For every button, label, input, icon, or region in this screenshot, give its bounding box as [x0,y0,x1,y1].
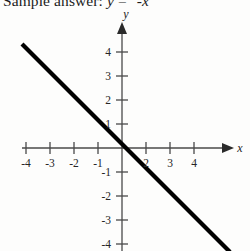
x-tick-label: -3 [45,157,55,169]
y-tick-label: -4 [101,238,111,250]
y-tick-label: -2 [101,190,111,202]
x-tick-label: 2 [143,157,149,169]
y-tick-label: -3 [101,214,111,226]
y-tick-label: 4 [105,46,111,58]
figure-page: Sample answer: y=-x [0,0,250,251]
y-axis-label: y [122,12,129,21]
x-tick-label: 4 [191,157,197,169]
x-tick-label: -2 [69,157,79,169]
y-axis-arrow-icon [117,22,127,34]
equation-operator: = [114,0,131,9]
coordinate-graph: -4 -3 -2 -1 2 3 4 4 3 2 1 -1 -2 -3 -4 x … [0,12,250,251]
y-tick-label: 3 [105,70,111,82]
y-tick-label: 2 [105,94,111,106]
x-tick-label: -4 [21,157,31,169]
y-tick-label: -1 [101,166,111,178]
caption-prefix: Sample answer: [3,0,103,9]
x-axis-label: x [236,141,243,155]
x-axis-arrow-icon [222,143,234,153]
caption-text: Sample answer: y=-x [0,0,250,12]
y-tick-label: 1 [105,118,111,130]
equation-variable-y: y [107,0,114,9]
x-tick-label: 3 [167,157,173,169]
equation-expression: -x [131,0,149,9]
